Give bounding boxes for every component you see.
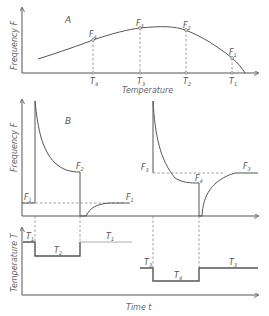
panel-a-y-axis-label: Frequency F bbox=[10, 20, 19, 70]
panel-a: A F4 F3 F2 F1 T4 T3 T2 T1 Temperature Fr… bbox=[10, 8, 258, 95]
panel-c-x-axis-label: Time t bbox=[126, 303, 152, 312]
f2-label-b: F2 bbox=[76, 162, 84, 172]
f3-start-label: F3 bbox=[141, 163, 149, 173]
frequency-trace-heating bbox=[35, 101, 80, 172]
t2-label-a: T2 bbox=[183, 77, 191, 87]
t1-label-a: T1 bbox=[229, 77, 237, 87]
f1-label-a: F1 bbox=[229, 48, 237, 58]
f3-label-a: F3 bbox=[136, 19, 144, 29]
f1-end-label: F1 bbox=[126, 193, 134, 203]
panel-c-y-axis-label: Temperature T bbox=[10, 232, 19, 292]
t1-end-label: T1 bbox=[106, 232, 114, 242]
diagram-canvas: A F4 F3 F2 F1 T4 T3 T2 T1 Temperature Fr… bbox=[0, 0, 269, 316]
panel-b: B F1 F2 F1 F3 F4 F3 Frequency F bbox=[10, 100, 258, 216]
panel-b-label: B bbox=[65, 116, 71, 126]
f1-start-label: F1 bbox=[24, 193, 32, 203]
panel-b-y-axis-label: Frequency F bbox=[10, 122, 19, 172]
panel-a-x-axis-label: Temperature bbox=[122, 86, 173, 95]
t3-start-label: T3 bbox=[144, 258, 152, 268]
temperature-step-heating bbox=[23, 242, 80, 256]
f4-label-a: F4 bbox=[89, 30, 97, 40]
panel-c: T1 T2 T1 T3 T4 T3 Temperature T Time t bbox=[10, 228, 258, 312]
temperature-step-cooling bbox=[140, 268, 258, 281]
panel-a-label: A bbox=[64, 15, 71, 25]
f3-end-label: F3 bbox=[243, 162, 251, 172]
t2-step-label: T2 bbox=[54, 246, 62, 256]
frequency-temperature-curve bbox=[38, 27, 245, 73]
t4-label-a: T4 bbox=[90, 77, 98, 87]
t1-start-label: T1 bbox=[26, 232, 34, 242]
frequency-trace-cooling bbox=[153, 101, 199, 183]
t3-end-label: T3 bbox=[229, 258, 237, 268]
t4-step-label: T4 bbox=[174, 271, 182, 281]
f4-label-b: F4 bbox=[195, 174, 203, 184]
f2-label-a: F2 bbox=[183, 21, 191, 31]
